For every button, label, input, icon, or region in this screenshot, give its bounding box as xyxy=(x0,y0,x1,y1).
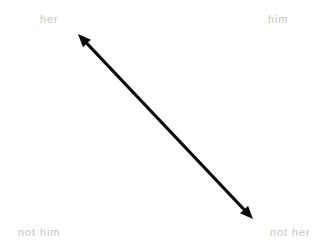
arrow-shaft xyxy=(84,41,246,213)
diagram-canvas: her him not him not her xyxy=(0,0,323,252)
diagonal-double-arrow-icon xyxy=(0,0,323,252)
